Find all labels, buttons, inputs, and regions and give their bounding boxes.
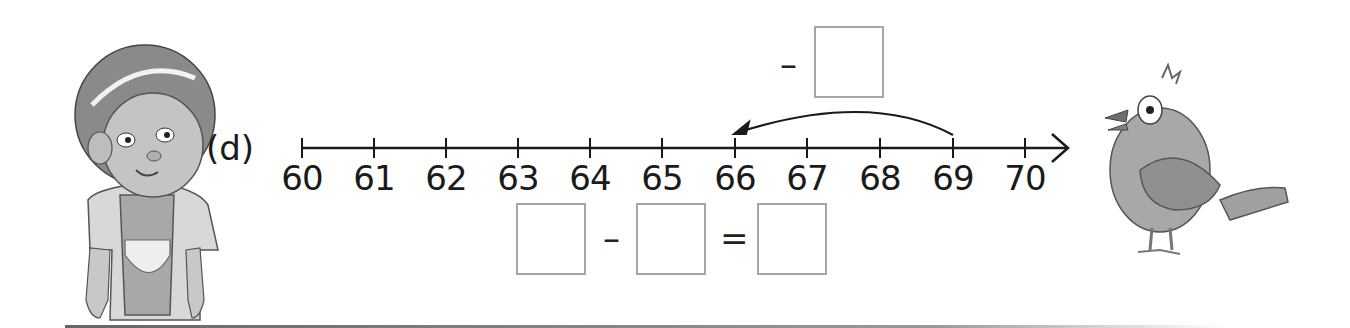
tick-label-61: 61 — [338, 158, 410, 198]
equation-result-box[interactable] — [757, 203, 827, 275]
tick-label-70: 70 — [989, 158, 1061, 198]
equation-middle-box[interactable] — [636, 203, 706, 275]
bird-illustration — [1080, 60, 1300, 260]
tick-label-62: 62 — [410, 158, 482, 198]
tick-label-68: 68 — [844, 158, 916, 198]
equation-minus-sign: – — [603, 218, 620, 258]
jump-arrow — [736, 112, 953, 135]
equation-left-box[interactable] — [516, 203, 586, 275]
tick-label-67: 67 — [771, 158, 843, 198]
tick-label-69: 69 — [917, 158, 989, 198]
tick-label-65: 65 — [626, 158, 698, 198]
tick-label-60: 60 — [266, 158, 338, 198]
tick-label-64: 64 — [554, 158, 626, 198]
jump-minus-sign: – — [780, 44, 797, 84]
jump-answer-box[interactable] — [814, 26, 884, 98]
tick-label-63: 63 — [482, 158, 554, 198]
tick-label-66: 66 — [699, 158, 771, 198]
equals-sign: = — [720, 218, 749, 258]
